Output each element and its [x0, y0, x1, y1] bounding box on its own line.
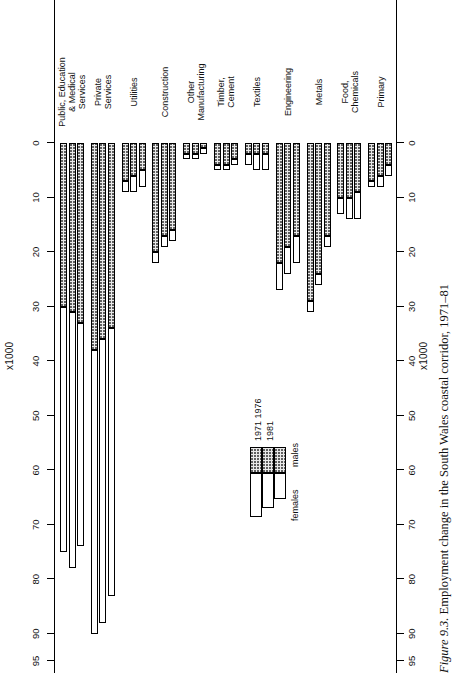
category-label-line: Textiles [252, 47, 262, 137]
bar-segment-males [346, 143, 353, 198]
axis-tick [397, 524, 404, 525]
bar-group: Timber,Cement [210, 0, 241, 673]
bar-segment-males [169, 143, 176, 230]
axis-tick [397, 633, 404, 634]
axis-tick-label: 80 [406, 567, 417, 591]
bar-segment-males [245, 143, 252, 154]
axis-line-bottom [396, 0, 397, 673]
category-label: Primary [376, 47, 386, 137]
bar-segment-females [169, 230, 176, 241]
axis-tick-label: 70 [30, 513, 41, 537]
axis-tick-label: 90 [30, 622, 41, 646]
bar-segment-males [60, 143, 67, 307]
legend-swatch-females-1981 [274, 473, 286, 499]
bar-segment-males [214, 143, 221, 165]
bar-segment-males [192, 143, 199, 154]
bar-segment-males [69, 143, 76, 312]
legend-swatch-males-1976 [262, 447, 274, 473]
bar-1971 [245, 0, 252, 673]
bar-segment-males [231, 143, 238, 159]
bar-segment-females [253, 154, 260, 170]
bar-1971 [152, 0, 159, 673]
axis-tick [397, 578, 404, 579]
axis-tick-label: 80 [30, 567, 41, 591]
axis-tick [397, 142, 404, 143]
axis-tick [47, 251, 54, 252]
bar-1971 [368, 0, 375, 673]
bar-segment-females [192, 154, 199, 159]
axis-tick-label: 40 [406, 349, 417, 373]
category-label-line: Food, [340, 47, 350, 137]
bar-segment-males [262, 143, 269, 154]
axis-tick [397, 360, 404, 361]
bar-group: Engineering [272, 0, 303, 673]
category-label: Engineering [283, 47, 293, 137]
axis-tick-label: 60 [30, 458, 41, 482]
bar-group: Textiles [241, 0, 272, 673]
bar-segment-females [276, 263, 283, 290]
legend-swatch-males-1981 [274, 447, 286, 473]
axis-tick-label: 0 [30, 131, 41, 155]
category-label-line: Engineering [283, 47, 293, 137]
bar-segment-males [385, 143, 392, 165]
category-label: Textiles [252, 47, 262, 137]
axis-tick [397, 415, 404, 416]
bar-group: OtherManufacturing [179, 0, 210, 673]
bar-segment-males [354, 143, 361, 192]
category-label-line: Timber, [216, 47, 226, 137]
bar-segment-females [337, 198, 344, 214]
bar-segment-females [99, 339, 106, 623]
category-label: Metals [314, 47, 324, 137]
bar-1981 [385, 0, 392, 673]
category-label: Construction [160, 47, 170, 137]
bar-segment-males [77, 143, 84, 323]
bar-segment-females [60, 307, 67, 552]
bar-segment-females [223, 165, 230, 170]
axis-tick-label: 40 [30, 349, 41, 373]
category-label-line: Cement [226, 47, 236, 137]
bar-segment-females [262, 154, 269, 170]
bar-segment-females [293, 236, 300, 263]
axis-tick [397, 660, 404, 661]
category-label: Timber,Cement [216, 47, 236, 137]
bar-segment-females [108, 328, 115, 595]
category-label-line: Manufacturing [196, 47, 206, 137]
figure-caption-text: Employment change in the South Wales coa… [437, 284, 451, 614]
axis-tick-label: 10 [406, 186, 417, 210]
bar-segment-males [315, 143, 322, 274]
bar-segment-females [245, 154, 252, 165]
category-label-line: Construction [160, 47, 170, 137]
bar-segment-females [377, 176, 384, 187]
category-label-line: Primary [376, 47, 386, 137]
bar-group: Metals [303, 0, 334, 673]
legend-label-males: males [290, 443, 300, 467]
category-label-line: Services [103, 47, 113, 137]
bar-segment-males [161, 143, 168, 236]
bar-group: Utilities [118, 0, 149, 673]
category-label: Food,Chemicals [340, 47, 360, 137]
bar-segment-females [307, 301, 314, 312]
category-label: PrivateServices [93, 47, 113, 137]
bar-segment-males [253, 143, 260, 154]
category-label: Utilities [129, 47, 139, 137]
bar-1981 [262, 0, 269, 673]
bar-segment-females [152, 252, 159, 263]
category-label-line: Private [93, 47, 103, 137]
bar-segment-males [293, 143, 300, 236]
bar-segment-males [99, 143, 106, 339]
legend-label-females: females [290, 489, 300, 521]
bar-segment-males [152, 143, 159, 252]
axis-tick-label: 95 [406, 649, 417, 673]
axis-tick-label: 60 [406, 458, 417, 482]
axis-tick [47, 197, 54, 198]
bar-segment-females [139, 170, 146, 186]
bar-1981 [169, 0, 176, 673]
bar-segment-males [130, 143, 137, 176]
axis-tick [47, 660, 54, 661]
bar-segment-females [284, 247, 291, 274]
bar-1981 [293, 0, 300, 673]
bar-group: Primary [364, 0, 395, 673]
axis-tick-label: 30 [30, 295, 41, 319]
